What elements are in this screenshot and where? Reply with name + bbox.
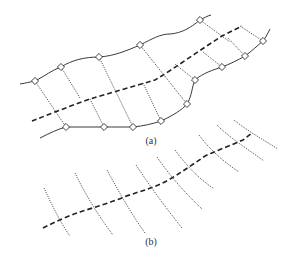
- cross-section: [217, 125, 264, 161]
- cross-section: [136, 165, 182, 228]
- cross-section: [61, 67, 80, 98]
- panel-b: (b): [43, 120, 278, 248]
- cross-section: [240, 26, 263, 41]
- cross-sections-a: [35, 20, 263, 127]
- centerline-a: [32, 26, 242, 121]
- node-diamond: [136, 41, 143, 48]
- node-diamond: [100, 123, 107, 130]
- cross-section: [200, 20, 230, 42]
- cross-section: [143, 83, 161, 121]
- cross-section: [140, 45, 187, 104]
- cross-section: [35, 81, 66, 127]
- caption-a: (a): [145, 135, 156, 147]
- cross-section: [203, 52, 222, 67]
- cross-section: [228, 38, 245, 56]
- cross-section: [234, 120, 278, 149]
- cross-section: [199, 135, 239, 172]
- caption-b: (b): [145, 236, 157, 248]
- node-diamond: [62, 123, 69, 130]
- centerline-b: [43, 133, 252, 228]
- cross-sections-b: [44, 120, 278, 236]
- cross-section: [90, 99, 104, 127]
- diagram-canvas: (a) (b): [0, 0, 294, 270]
- node-diamond: [129, 123, 136, 130]
- node-diamond: [57, 63, 64, 70]
- top-bank-line: [20, 15, 211, 84]
- cross-section: [175, 64, 195, 80]
- node-diamond: [95, 53, 102, 60]
- cross-section: [44, 188, 70, 236]
- bank-nodes: [31, 16, 266, 130]
- node-diamond: [31, 77, 38, 84]
- node-diamond: [157, 117, 164, 124]
- panel-a: (a): [20, 15, 270, 147]
